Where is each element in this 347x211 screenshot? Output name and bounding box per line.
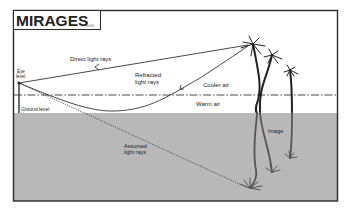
title-ref: ref 00 <box>86 24 94 28</box>
direct-rays-label: Direct light rays <box>70 56 111 62</box>
cooler-air-label: Cooler air <box>203 82 229 88</box>
direct-arrow-icon <box>95 64 99 70</box>
image-label: Image <box>268 128 283 134</box>
assumed-rays-label: Assumed light rays <box>124 143 148 155</box>
warm-air-label: Warm air <box>196 101 220 107</box>
refracted-rays-label: Refracted light rays <box>135 72 163 85</box>
page-title: MIRAGES <box>16 12 88 29</box>
eye-level-label: Eye level <box>16 69 26 79</box>
ground-level-label: Ground level <box>21 106 49 112</box>
direct-light-ray <box>19 45 248 83</box>
palm-trees-icon <box>241 36 298 113</box>
mirage-diagram: MIRAGES ref 00 Eye level Ground level Di… <box>0 0 347 211</box>
